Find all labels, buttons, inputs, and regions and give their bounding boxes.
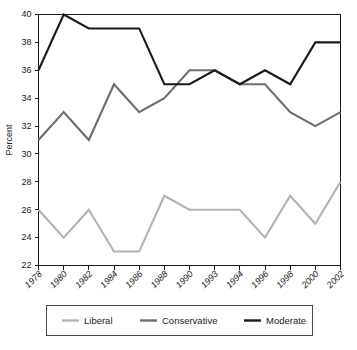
y-tick-label: 32 <box>21 121 31 131</box>
series-lines <box>39 15 341 252</box>
x-tick-label: 1978 <box>23 269 44 290</box>
x-tick-label: 2002 <box>324 269 346 291</box>
x-tick-label: 1986 <box>123 269 144 290</box>
x-tick-label: 1993 <box>199 269 220 290</box>
y-tick-label: 24 <box>21 232 31 242</box>
y-tick-label: 34 <box>21 93 31 103</box>
legend-label-moderate: Moderate <box>266 315 306 326</box>
legend-label-liberal: Liberal <box>84 315 113 326</box>
line-chart: 22242628303234363840 1978198019821984198… <box>0 0 357 350</box>
legend-items: LiberalConservativeModerate <box>62 315 306 326</box>
x-tick-label: 1982 <box>73 269 94 290</box>
legend-label-conservative: Conservative <box>162 315 217 326</box>
chart-canvas: 22242628303234363840 1978198019821984198… <box>0 0 357 350</box>
y-axis-ticks: 22242628303234363840 <box>21 9 38 270</box>
plot-frame <box>39 15 341 266</box>
x-tick-label: 1990 <box>174 269 195 290</box>
x-tick-label: 1996 <box>249 269 270 290</box>
y-tick-label: 28 <box>21 177 31 187</box>
series-line-liberal <box>39 182 341 252</box>
series-line-conservative <box>39 70 341 140</box>
x-tick-label: 1984 <box>98 269 119 290</box>
x-axis-ticks: 1978198019821984198619881990199319941996… <box>23 266 346 291</box>
x-tick-label: 1998 <box>274 269 295 290</box>
plot-area-border <box>39 15 341 266</box>
y-tick-label: 40 <box>21 9 31 19</box>
x-tick-label: 1980 <box>48 269 69 290</box>
x-tick-label: 1988 <box>149 269 170 290</box>
y-tick-label: 38 <box>21 37 31 47</box>
y-tick-label: 36 <box>21 65 31 75</box>
y-tick-label: 22 <box>21 260 31 270</box>
series-line-moderate <box>39 15 341 85</box>
chart-legend: LiberalConservativeModerate <box>47 306 313 336</box>
x-tick-label: 1994 <box>224 269 245 290</box>
y-axis-title: Percent <box>4 124 14 156</box>
y-tick-label: 30 <box>21 149 31 159</box>
y-tick-label: 26 <box>21 205 31 215</box>
x-tick-label: 2000 <box>299 269 321 291</box>
